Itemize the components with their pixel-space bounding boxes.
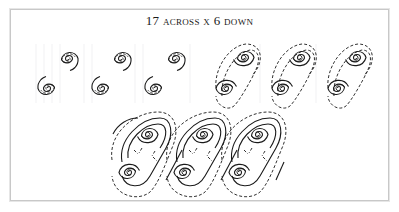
spiral-icon: [115, 52, 132, 70]
spiral-icon: [92, 77, 109, 95]
spiral-icon: [145, 77, 162, 95]
spiral-icon: [328, 80, 349, 94]
spiral-icon: [272, 80, 293, 94]
spiral-icon: [169, 52, 186, 70]
group-3-spirals: [112, 112, 286, 197]
spiral-icon: [62, 52, 79, 70]
group-2-spirals: [216, 44, 373, 108]
spiral-diagram: [0, 0, 399, 212]
spiral-icon: [290, 51, 311, 65]
spiral-icon: [234, 51, 255, 65]
spiral-icon: [216, 80, 237, 94]
spiral-icon: [346, 51, 367, 65]
